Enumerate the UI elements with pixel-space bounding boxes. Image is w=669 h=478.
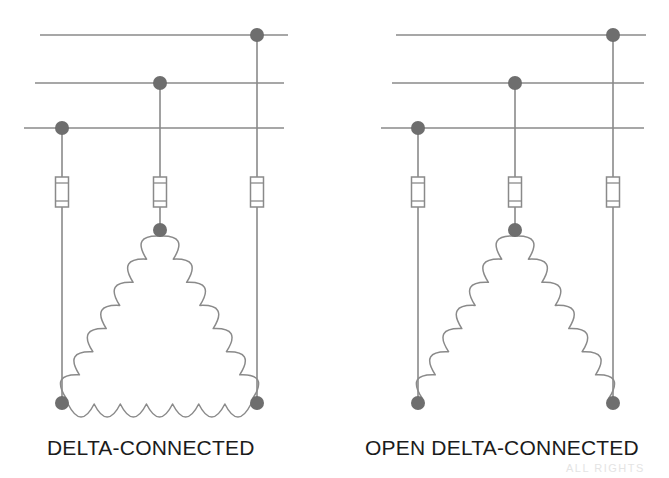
delta-winding-right-leg xyxy=(160,236,259,398)
open-delta-winding-right-leg xyxy=(515,236,615,398)
delta-fuse-center xyxy=(154,177,167,207)
watermark-text: ALL RIGHTS xyxy=(566,462,645,474)
open-delta-winding-node-apex xyxy=(508,223,522,237)
delta-winding-node-bottom-right xyxy=(250,396,264,410)
open-delta-bus-node-phase-b xyxy=(508,76,522,90)
open-delta-winding-node-bottom-left xyxy=(411,396,425,410)
delta-winding-node-apex xyxy=(153,223,167,237)
delta-fuse-right xyxy=(251,177,264,207)
delta-bus-node-phase-c xyxy=(55,121,69,135)
delta-winding-left-leg xyxy=(60,236,160,398)
open-delta-fuse-right xyxy=(607,177,620,207)
open-delta-bus-node-phase-c xyxy=(411,121,425,135)
diagram-open-delta xyxy=(381,28,646,410)
delta-bus-node-phase-a xyxy=(250,28,264,42)
figure-label-open-delta-connected: OPEN DELTA-CONNECTED xyxy=(365,436,639,460)
open-delta-fuse-left xyxy=(412,177,425,207)
delta-fuse-left xyxy=(56,177,69,207)
diagram-delta xyxy=(24,28,288,417)
schematic-canvas xyxy=(0,0,669,478)
open-delta-winding-left-leg xyxy=(416,236,515,398)
open-delta-bus-node-phase-a xyxy=(606,28,620,42)
open-delta-fuse-center xyxy=(509,177,522,207)
delta-winding-node-bottom-left xyxy=(55,396,69,410)
delta-bus-node-phase-b xyxy=(153,76,167,90)
delta-winding-bottom xyxy=(68,404,251,417)
figure-label-delta-connected: DELTA-CONNECTED xyxy=(47,436,255,460)
open-delta-winding-node-bottom-right xyxy=(606,396,620,410)
